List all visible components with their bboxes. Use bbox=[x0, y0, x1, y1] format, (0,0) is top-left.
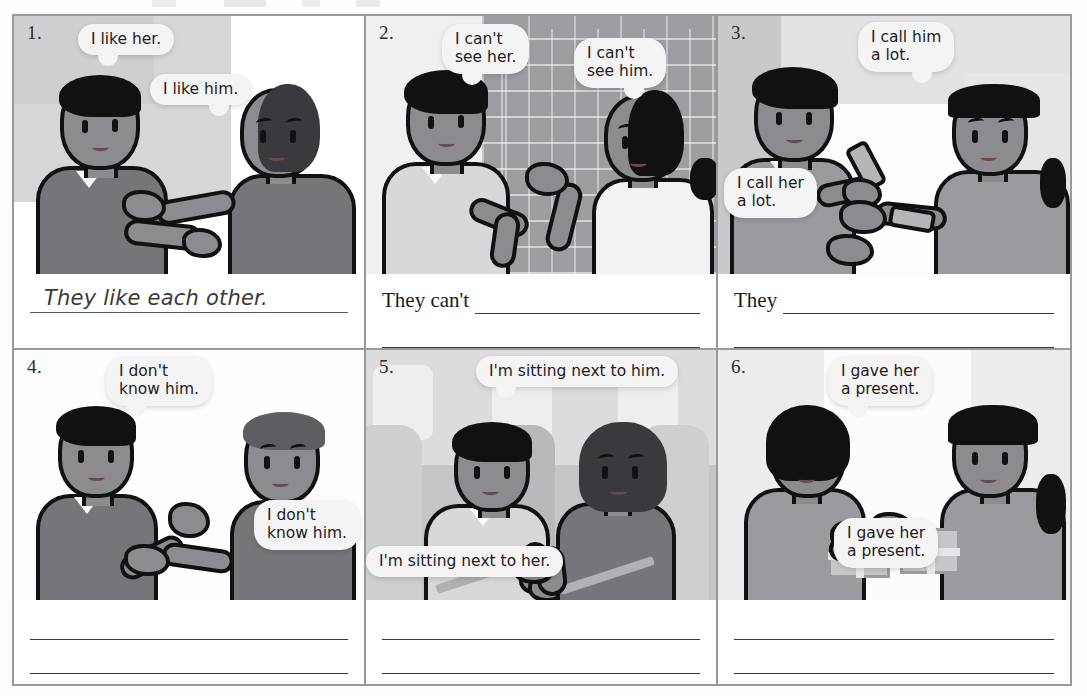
speech-bubble-left: I'm sitting next to her. bbox=[366, 546, 563, 577]
figure-woman-seated bbox=[552, 420, 702, 600]
item-number: 4. bbox=[27, 356, 42, 378]
item-number: 6. bbox=[731, 356, 746, 378]
speech-bubble-left: I don't know him. bbox=[106, 356, 212, 406]
exercise-item-1: 1. bbox=[14, 16, 366, 350]
answer-area-3: They bbox=[718, 274, 1070, 348]
example-answer: They like each other. bbox=[30, 288, 274, 312]
answer-line-1[interactable]: They can't bbox=[382, 280, 700, 314]
speech-bubble-left: I like her. bbox=[78, 24, 174, 55]
speech-bubble-right: I like him. bbox=[150, 74, 251, 105]
speech-bubble-left: I can't see her. bbox=[442, 24, 529, 74]
figure-man-left bbox=[380, 69, 530, 274]
figure-woman-right bbox=[906, 400, 1066, 600]
answer-line-2[interactable] bbox=[734, 314, 1054, 348]
speech-bubble-left: I gave her a present. bbox=[828, 356, 932, 406]
answer-line-1[interactable] bbox=[734, 606, 1054, 640]
item-number: 2. bbox=[379, 22, 394, 44]
figure-woman-right bbox=[559, 89, 714, 274]
write-rule[interactable] bbox=[382, 347, 700, 348]
answer-line-1[interactable] bbox=[382, 606, 700, 640]
answer-area-6 bbox=[718, 600, 1070, 684]
illustration-4: 4. bbox=[14, 350, 364, 600]
cut-off-title-remnant bbox=[140, 0, 440, 7]
figure-woman-right bbox=[905, 78, 1070, 274]
figure-woman-left bbox=[744, 400, 894, 600]
write-rule[interactable] bbox=[382, 673, 700, 674]
exercise-item-2: 2. bbox=[366, 16, 718, 350]
speech-bubble-right: I can't see him. bbox=[574, 38, 666, 88]
answer-line-filled[interactable]: They like each other. bbox=[30, 280, 348, 313]
speech-bubble-right: I call him a lot. bbox=[858, 22, 954, 72]
answer-area-4 bbox=[14, 600, 364, 684]
answer-line-1[interactable] bbox=[30, 606, 348, 640]
answer-line-2[interactable] bbox=[382, 314, 700, 348]
answer-area-2: They can't bbox=[366, 274, 716, 348]
answer-line-2[interactable] bbox=[734, 640, 1054, 674]
answer-line-1[interactable]: They bbox=[734, 280, 1054, 314]
write-rule[interactable] bbox=[734, 673, 1054, 674]
exercise-item-5: 5. bbox=[366, 350, 718, 684]
speech-bubble-left: I call her a lot. bbox=[724, 168, 817, 218]
illustration-2: 2. bbox=[366, 16, 716, 274]
workbook-page: 1. bbox=[0, 0, 1087, 696]
illustration-5: 5. bbox=[366, 350, 716, 600]
exercise-grid: 1. bbox=[12, 14, 1072, 686]
exercise-item-4: 4. bbox=[14, 350, 366, 684]
sentence-prompt: They bbox=[734, 290, 777, 314]
figure-woman-right bbox=[208, 84, 358, 274]
answer-line-2[interactable] bbox=[30, 640, 348, 674]
answer-area-1: They like each other. bbox=[14, 274, 364, 348]
answer-line-2[interactable] bbox=[382, 640, 700, 674]
item-number: 5. bbox=[379, 356, 394, 378]
answer-area-5 bbox=[366, 600, 716, 684]
item-number: 1. bbox=[27, 22, 42, 44]
sentence-prompt: They can't bbox=[382, 290, 469, 314]
illustration-3: 3. bbox=[718, 16, 1070, 274]
illustration-1: 1. bbox=[14, 16, 364, 274]
exercise-item-3: 3. bbox=[718, 16, 1070, 350]
write-rule[interactable] bbox=[734, 347, 1054, 348]
speech-bubble-right: I don't know him. bbox=[254, 500, 360, 550]
write-rule[interactable] bbox=[30, 673, 348, 674]
exercise-item-6: 6. bbox=[718, 350, 1070, 684]
illustration-6: 6. bbox=[718, 350, 1070, 600]
speech-bubble-right: I'm sitting next to him. bbox=[476, 356, 678, 387]
item-number: 3. bbox=[731, 22, 746, 44]
speech-bubble-right: I gave her a present. bbox=[834, 518, 938, 568]
